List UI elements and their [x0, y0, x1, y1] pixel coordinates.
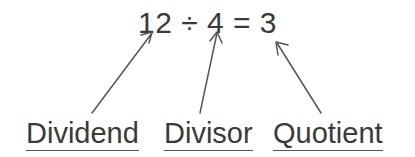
arrow-dividend-icon	[92, 32, 152, 113]
diagram-canvas: 12 ÷ 4 = 3 Dividend Divisor Quotient	[0, 0, 415, 157]
arrow-quotient-icon	[276, 42, 321, 113]
label-quotient: Quotient	[273, 118, 383, 151]
arrow-divisor-icon	[200, 32, 222, 113]
label-divisor: Divisor	[164, 118, 253, 151]
label-dividend: Dividend	[26, 118, 139, 151]
